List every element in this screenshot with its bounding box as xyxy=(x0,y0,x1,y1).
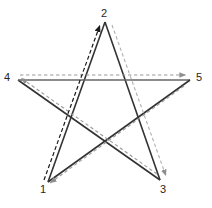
traversal-path-arrows xyxy=(20,25,186,183)
arrow-5-to-1 xyxy=(50,86,184,183)
arrow-3-to-4 xyxy=(21,78,157,174)
vertex-label-1: 1 xyxy=(40,184,46,195)
edge-1-2 xyxy=(48,22,105,182)
pentagram-figure: 1 2 3 4 5 xyxy=(0,0,212,208)
vertex-label-3: 3 xyxy=(160,184,166,195)
arrow-1-to-2 xyxy=(44,25,100,180)
edge-3-4 xyxy=(18,80,160,180)
pentagram-canvas xyxy=(0,0,212,208)
vertex-label-4: 4 xyxy=(4,72,10,83)
star-solid-edges xyxy=(18,22,190,182)
edge-5-1 xyxy=(48,80,190,182)
vertex-label-5: 5 xyxy=(196,72,202,83)
arrow-2-to-3 xyxy=(112,25,166,176)
vertex-label-2: 2 xyxy=(101,8,107,19)
